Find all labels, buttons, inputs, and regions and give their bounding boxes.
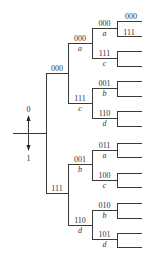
branch-symbol: a	[103, 29, 107, 38]
branch-level3: 000 a	[92, 19, 117, 38]
branch-level3: 101 d	[92, 230, 117, 249]
branch-symbol: c	[103, 59, 107, 68]
branch-symbol: c	[78, 104, 82, 113]
branch-symbol: b	[103, 89, 107, 98]
branch-level3: 011 a	[92, 141, 117, 160]
branch-level2: 000 a	[68, 34, 92, 53]
branch-symbol: a	[103, 151, 107, 160]
branch-code: 100	[99, 171, 111, 180]
branch-code: 111	[99, 49, 110, 58]
branch-level3: 100 c	[92, 171, 117, 190]
branch-code: 001	[74, 155, 86, 164]
arrow-up-icon	[27, 115, 31, 121]
branch-code: 010	[99, 201, 111, 210]
branch-code: 000	[99, 19, 111, 28]
branch-symbol: d	[78, 226, 83, 235]
leaf-forks	[117, 21, 142, 248]
axis-label-zero: 0	[27, 105, 31, 114]
branch-symbol: d	[103, 240, 108, 249]
branch-symbol: d	[103, 119, 108, 128]
branch-level1-lower: 111	[46, 184, 68, 194]
branch-code: 110	[74, 216, 86, 225]
axis-label-one: 1	[27, 154, 31, 163]
branch-symbol: b	[78, 165, 82, 174]
code-tree-diagram: 0 1 000 111 000 a 111 c 001 b 110 d	[0, 0, 151, 266]
branch-level2: 001 b	[68, 155, 92, 174]
branch-code: 011	[99, 141, 111, 150]
branch-code: 111	[74, 94, 85, 103]
branch-level3: 111 c	[92, 49, 117, 68]
branch-level3: 001 b	[92, 79, 117, 98]
branch-level2: 110 d	[68, 216, 92, 235]
branch-code: 110	[99, 109, 111, 118]
branch-symbol: b	[103, 211, 107, 220]
branch-symbol: a	[78, 44, 82, 53]
branch-symbol: c	[103, 181, 107, 190]
leaf-code: 000	[125, 12, 137, 21]
leaf-code: 111	[123, 28, 134, 37]
branch-level1-upper: 000	[46, 64, 68, 74]
branch-code: 000	[74, 34, 86, 43]
arrow-down-icon	[27, 145, 31, 151]
branch-code: 000	[51, 64, 63, 73]
branch-level3: 010 b	[92, 201, 117, 220]
input-axis: 0 1	[13, 105, 46, 163]
branch-code: 001	[99, 79, 111, 88]
branch-code: 111	[51, 184, 62, 193]
branch-level2: 111 c	[68, 94, 92, 113]
branch-code: 101	[99, 230, 111, 239]
branch-level3: 110 d	[92, 109, 117, 128]
